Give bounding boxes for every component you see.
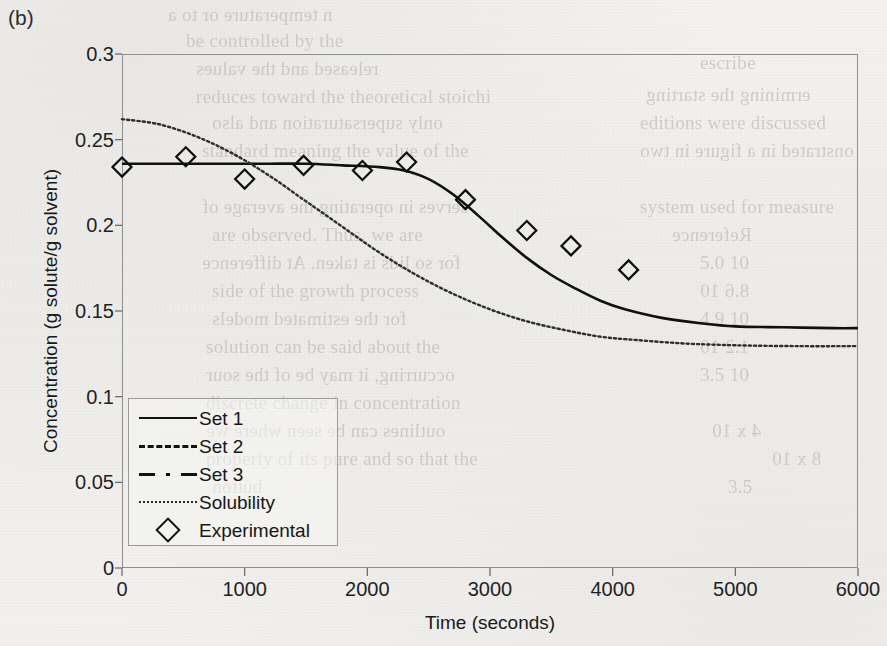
experimental-data-point bbox=[619, 260, 638, 279]
y-tick-label: 0.3 bbox=[86, 43, 114, 66]
legend-label: Set 3 bbox=[199, 465, 243, 484]
x-tick-label: 4000 bbox=[590, 578, 635, 601]
x-tick-label: 0 bbox=[116, 578, 127, 601]
y-tick-label: 0.25 bbox=[75, 128, 114, 151]
experimental-data-point bbox=[113, 158, 132, 177]
x-axis-title: Time (seconds) bbox=[122, 612, 858, 634]
dotted-line-icon bbox=[137, 493, 199, 511]
solid-line-icon bbox=[137, 409, 199, 427]
legend-item-set-2: Set 2 bbox=[129, 432, 337, 460]
y-tick-label: 0 bbox=[103, 557, 114, 580]
dashed-line-icon bbox=[137, 437, 199, 455]
y-axis-title-holder: Concentration (g solute/g solvent) bbox=[24, 0, 25, 1]
experimental-data-point bbox=[294, 156, 313, 175]
diamond-marker-icon bbox=[137, 521, 199, 539]
legend-item-set-1: Set 1 bbox=[129, 404, 337, 432]
legend-item-set-3: Set 3 bbox=[129, 460, 337, 488]
x-tick-label: 5000 bbox=[713, 578, 758, 601]
y-tick-label: 0.2 bbox=[86, 214, 114, 237]
legend-label: Set 1 bbox=[199, 409, 243, 428]
series-line-set-1 bbox=[122, 164, 858, 329]
y-tick-label: 0.15 bbox=[75, 300, 114, 323]
data-series-group bbox=[122, 119, 858, 346]
legend-item-solubility: Solubility bbox=[129, 488, 337, 516]
y-tick-label: 0.1 bbox=[86, 385, 114, 408]
x-tick-label: 2000 bbox=[345, 578, 390, 601]
y-axis-title: Concentration (g solute/g solvent) bbox=[40, 96, 62, 526]
experimental-data-point bbox=[235, 170, 254, 189]
x-tick-label: 1000 bbox=[222, 578, 267, 601]
experimental-data-point bbox=[353, 161, 372, 180]
dash-dot-line-icon bbox=[137, 465, 199, 483]
x-tick-label: 6000 bbox=[836, 578, 881, 601]
series-line-solubility bbox=[122, 119, 858, 346]
chart-canvas bbox=[0, 0, 887, 646]
legend-label: Set 2 bbox=[199, 437, 243, 456]
legend-label: Experimental bbox=[199, 521, 310, 540]
legend-item-experimental: Experimental bbox=[129, 516, 337, 544]
experimental-data-point bbox=[561, 236, 580, 255]
legend-label: Solubility bbox=[199, 493, 275, 512]
y-tick-label: 0.05 bbox=[75, 471, 114, 494]
x-tick-label: 3000 bbox=[468, 578, 513, 601]
chart-legend: Set 1 Set 2 Set 3 Solubility Experimenta… bbox=[128, 398, 338, 546]
experimental-data-point bbox=[517, 221, 536, 240]
